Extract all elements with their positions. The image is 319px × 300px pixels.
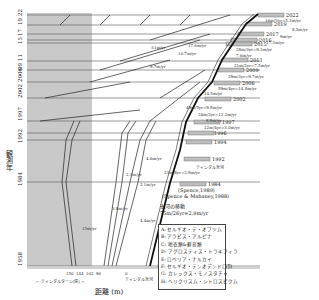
- svg-text:1992: 1992: [212, 156, 225, 162]
- svg-text:17: 17: [17, 29, 23, 36]
- svg-text:49m/5yr=9.8m/yr: 49m/5yr=9.8m/yr: [186, 105, 222, 110]
- svg-text:4.4m/yr: 4.4m/yr: [140, 218, 156, 223]
- svg-text:144: 144: [76, 271, 84, 276]
- svg-text:75m/26yr=2.9m/yr: 75m/26yr=2.9m/yr: [160, 210, 209, 217]
- svg-text:102: 102: [86, 271, 94, 276]
- svg-text:8.8m/yr: 8.8m/yr: [206, 118, 222, 123]
- svg-text:24m/2yr=12.2m/yr: 24m/2yr=12.2m/yr: [198, 112, 237, 117]
- legend-item: A: セルギオ・テ・オブツム: [161, 226, 223, 233]
- legend-item: D: アグロスティス・トラキフィラ: [161, 248, 223, 255]
- svg-text:2002: 2002: [17, 84, 23, 98]
- svg-text:2.1m/yr: 2.1m/yr: [140, 182, 156, 187]
- svg-text:8.7m/yr: 8.7m/yr: [150, 64, 166, 69]
- svg-text:1992: 1992: [17, 129, 23, 143]
- svg-text:1997: 1997: [17, 107, 23, 121]
- x-axis-label: 距離 (m): [95, 286, 123, 296]
- svg-text:(Spence & Mahaney,1988): (Spence & Mahaney,1988): [162, 193, 229, 200]
- svg-text:4.6m/yr: 4.6m/yr: [146, 156, 162, 161]
- svg-text:23m/8yr=2.9m/yr: 23m/8yr=2.9m/yr: [164, 170, 200, 175]
- svg-text:3.8m/yr: 3.8m/yr: [112, 206, 128, 211]
- svg-text:氷河の移動: 氷河の移動: [160, 203, 185, 210]
- svg-text:16m/3yr=5.3m/yr: 16m/3yr=5.3m/yr: [265, 18, 301, 23]
- svg-text:12m/4yr=3.0m/yr: 12m/4yr=3.0m/yr: [204, 125, 240, 130]
- svg-text:1958: 1958: [17, 252, 23, 266]
- svg-text:ティンダル氷河: ティンダル氷河: [196, 164, 224, 170]
- y-axis-label: 観測年: [6, 150, 14, 171]
- svg-text:0: 0: [125, 271, 128, 276]
- svg-text:17.6m/yr: 17.6m/yr: [188, 43, 206, 48]
- svg-text:15m/yr: 15m/yr: [82, 226, 96, 231]
- svg-text:-31m/yr: -31m/yr: [150, 45, 166, 50]
- svg-text:14.5m/yr: 14.5m/yr: [204, 91, 222, 96]
- svg-text:7.6m/yr: 7.6m/yr: [236, 53, 252, 58]
- svg-text:ティンダル氷河: ティンダル氷河: [125, 276, 153, 282]
- legend-item: C: 地衣類&蘚苔類: [161, 241, 223, 248]
- svg-text:59m/4yr=14.8m/yr: 59m/4yr=14.8m/yr: [218, 86, 257, 91]
- svg-text:29m/3yr=9.7m/yr: 29m/3yr=9.7m/yr: [228, 74, 264, 79]
- legend-item: F: セルギオ・テンオデンドロン: [161, 263, 223, 270]
- svg-text:1994: 1994: [214, 139, 227, 145]
- svg-text:19: 19: [17, 18, 23, 25]
- svg-text:150: 150: [66, 271, 74, 276]
- svg-text:8.5m/yr: 8.5m/yr: [292, 27, 308, 32]
- svg-text:10.7m/yr: 10.7m/yr: [178, 51, 196, 56]
- svg-text:17.3m/yr: 17.3m/yr: [266, 40, 284, 45]
- svg-text:21m/2yr=7.5m/yr: 21m/2yr=7.5m/yr: [234, 63, 270, 68]
- legend-item: G: カレックス・モノスタチャ: [161, 270, 223, 277]
- svg-text:9m/yr: 9m/yr: [280, 34, 292, 39]
- svg-text:09: 09: [17, 63, 23, 70]
- svg-text:11: 11: [17, 54, 23, 61]
- svg-text:22: 22: [17, 9, 23, 16]
- legend: A: セルギオ・テ・オブツム B: アラビス・アルピナ C: 地衣類&蘚苔類 D…: [158, 224, 226, 290]
- svg-text:← ティンダルターン(堤) →: ← ティンダルターン(堤) →: [36, 278, 85, 284]
- svg-text:96: 96: [96, 271, 102, 276]
- svg-text:1996: 1996: [214, 130, 227, 136]
- svg-text:2002: 2002: [233, 96, 246, 102]
- svg-text:1984: 1984: [17, 172, 23, 186]
- legend-item: B: アラビス・アルピナ: [161, 233, 223, 240]
- svg-text:15: 15: [17, 37, 23, 44]
- legend-item: H: ヘリクリスム・シトロスピクム: [161, 278, 223, 285]
- legend-item: E: ロベリア・ナルカイ: [161, 256, 223, 263]
- y-axis-ticks: 1958 1984 1992 1997 2002 2006 09 11 15 1…: [17, 9, 23, 266]
- svg-text:28m/3yr=9.3m/yr: 28m/3yr=9.3m/yr: [236, 47, 272, 52]
- svg-text:2.3m/yr: 2.3m/yr: [126, 172, 142, 177]
